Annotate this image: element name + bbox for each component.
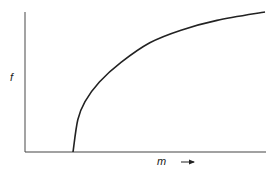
- arrow-right-icon: [189, 160, 195, 165]
- chart: [0, 0, 273, 177]
- curve-line: [73, 12, 265, 152]
- y-axis-label: f: [10, 71, 13, 83]
- x-axis-label: m: [157, 155, 166, 167]
